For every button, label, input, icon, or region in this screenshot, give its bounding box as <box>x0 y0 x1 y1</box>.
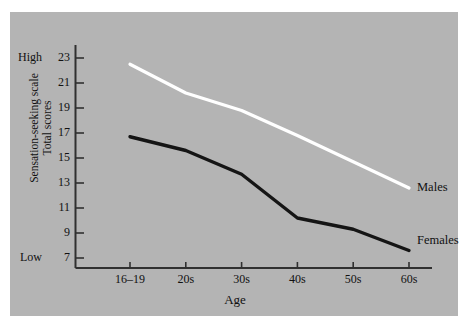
series-line-females <box>130 137 409 251</box>
y-tick-label: 23 <box>50 50 70 65</box>
y-axis-low-anchor: Low <box>6 250 42 265</box>
y-axis-title-line1: Sensation-seeking scale <box>28 73 40 183</box>
x-tick-label: 40s <box>274 272 320 287</box>
x-tick-label: 30s <box>219 272 265 287</box>
figure-container: 2321191715131197 High Low Sensation-seek… <box>0 0 469 329</box>
series-line-males <box>130 64 409 188</box>
series-label-females: Females <box>417 233 459 248</box>
x-tick-label: 60s <box>386 272 432 287</box>
x-tick-label: 50s <box>330 272 376 287</box>
y-axis-high-anchor: High <box>6 50 42 65</box>
y-tick-marks <box>76 58 85 258</box>
y-axis-title: Sensation-seeking scale Total scores <box>28 68 48 188</box>
y-axis-title-line2: Total scores <box>41 68 54 188</box>
x-tick-label: 20s <box>163 272 209 287</box>
x-tick-label: 16–19 <box>107 272 153 287</box>
x-axis-title: Age <box>205 292 265 308</box>
axis-lines <box>76 45 433 268</box>
y-tick-label: 7 <box>50 250 70 265</box>
y-tick-label: 11 <box>50 200 70 215</box>
y-tick-label: 9 <box>50 225 70 240</box>
series-label-males: Males <box>417 180 448 195</box>
